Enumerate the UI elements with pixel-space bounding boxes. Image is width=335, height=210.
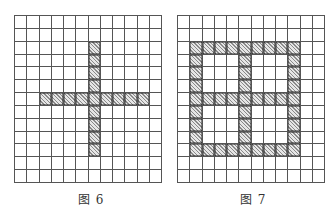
grid-cell [312, 169, 324, 182]
grid-cell [26, 66, 38, 79]
grid-cell [124, 118, 136, 131]
shaded-grid-cell [88, 79, 100, 92]
grid-cell [26, 92, 38, 105]
grid-cell [63, 118, 75, 131]
shaded-grid-cell [287, 131, 299, 144]
shaded-grid-cell [251, 92, 263, 105]
grid-cell [14, 169, 26, 182]
grid-cell [251, 28, 263, 41]
grid-cell [75, 15, 87, 28]
grid-cell [100, 105, 112, 118]
shaded-grid-cell [287, 105, 299, 118]
grid-cell [39, 15, 51, 28]
grid-cell [51, 66, 63, 79]
grid-cell [137, 156, 149, 169]
shaded-grid-cell [100, 92, 112, 105]
grid-cell [177, 79, 189, 92]
grid-cell [300, 15, 312, 28]
grid-cell [51, 131, 63, 144]
grid-cell [287, 169, 299, 182]
grid-cell [202, 105, 214, 118]
grid-cell [26, 105, 38, 118]
grid-cell [39, 105, 51, 118]
grid-cell [112, 143, 124, 156]
grid-cell [63, 131, 75, 144]
shaded-grid-cell [238, 54, 250, 67]
grid-cell [312, 118, 324, 131]
grid-cell [100, 15, 112, 28]
grid-cell [275, 28, 287, 41]
grid-cell [251, 79, 263, 92]
grid-cell [275, 79, 287, 92]
grid-cell [112, 105, 124, 118]
shaded-grid-cell [275, 143, 287, 156]
grid-cell [300, 156, 312, 169]
shaded-grid-cell [189, 143, 201, 156]
grid-cell [300, 131, 312, 144]
grid-cell [137, 105, 149, 118]
shaded-grid-cell [275, 41, 287, 54]
grid-cell [124, 131, 136, 144]
grid-cell [14, 15, 26, 28]
grid-cell [214, 118, 226, 131]
grid-cell [39, 79, 51, 92]
shaded-grid-cell [88, 105, 100, 118]
grid-cell [75, 66, 87, 79]
grid-cell [226, 15, 238, 28]
grid-cell [287, 28, 299, 41]
grid-cell [251, 169, 263, 182]
grid-cell [51, 105, 63, 118]
shaded-grid-cell [238, 79, 250, 92]
grid-cell [177, 131, 189, 144]
grid-cell [149, 66, 161, 79]
grid-cell [177, 66, 189, 79]
grid-cell [112, 41, 124, 54]
grid-cell [112, 118, 124, 131]
grid-cell [275, 66, 287, 79]
shaded-grid-cell [263, 92, 275, 105]
grid-cell [75, 105, 87, 118]
grid-cell [124, 28, 136, 41]
shaded-grid-cell [63, 92, 75, 105]
grid-cell [214, 28, 226, 41]
grid-cell [202, 169, 214, 182]
grid-cell [124, 79, 136, 92]
grid-cell [100, 169, 112, 182]
grid-cell [202, 156, 214, 169]
shaded-grid-cell [137, 92, 149, 105]
grid-cell [14, 105, 26, 118]
grid-cell [312, 15, 324, 28]
grid-cell [263, 54, 275, 67]
grid-cell [251, 66, 263, 79]
grid-cell [238, 15, 250, 28]
grid-cell [189, 169, 201, 182]
grid-cell [51, 41, 63, 54]
grid-cell [63, 54, 75, 67]
grid-cell [226, 79, 238, 92]
grid-cell [100, 41, 112, 54]
shaded-grid-cell [88, 92, 100, 105]
grid-cell [14, 41, 26, 54]
grid-cell [300, 105, 312, 118]
grid-cell [100, 54, 112, 67]
shaded-grid-cell [202, 41, 214, 54]
shaded-grid-cell [124, 92, 136, 105]
grid-cell [263, 66, 275, 79]
grid-cell [238, 156, 250, 169]
grid-cell [124, 143, 136, 156]
grid-cell [287, 15, 299, 28]
figure-6-caption: 图 6 [78, 190, 104, 207]
grid-cell [275, 118, 287, 131]
grid-cell [14, 28, 26, 41]
grid-cell [75, 118, 87, 131]
grid-cell [202, 28, 214, 41]
grid-cell [300, 54, 312, 67]
shaded-grid-cell [39, 92, 51, 105]
shaded-grid-cell [202, 92, 214, 105]
grid-cell [263, 131, 275, 144]
grid-cell [251, 118, 263, 131]
grid-cell [137, 15, 149, 28]
shaded-grid-cell [112, 92, 124, 105]
grid-cell [149, 131, 161, 144]
grid-cell [112, 28, 124, 41]
